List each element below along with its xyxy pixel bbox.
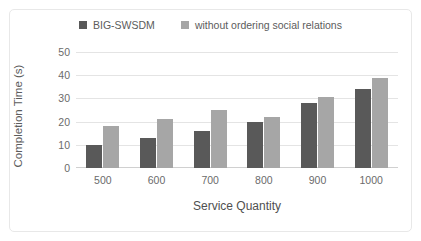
y-axis-title: Completion Time (s): [12, 51, 24, 181]
bar-group: [344, 52, 398, 168]
x-axis-tick-label: 900: [291, 174, 345, 186]
bar-series-2: [211, 110, 227, 168]
bar-series-2: [264, 117, 280, 168]
bar-series-1: [247, 122, 263, 168]
x-axis-title: Service Quantity: [76, 199, 398, 213]
y-axis-tick-label: 20: [58, 116, 70, 127]
x-axis-tick-label: 500: [76, 174, 130, 186]
x-axis-tick-labels: 5006007008009001000: [76, 174, 398, 186]
y-axis-tick-label: 50: [58, 47, 70, 58]
bar-series-2: [157, 119, 173, 168]
bar-series-1: [194, 131, 210, 168]
bar-chart-figure: BIG-SWSDM without ordering social relati…: [0, 0, 421, 241]
bar-group: [291, 52, 345, 168]
bar-group: [130, 52, 184, 168]
x-axis-tick-label: 1000: [344, 174, 398, 186]
bar-series-1: [140, 138, 156, 168]
y-axis-tick-label: 10: [58, 140, 70, 151]
bars-layer: [76, 52, 398, 168]
x-axis-tick-label: 700: [183, 174, 237, 186]
plot-area: [76, 52, 398, 168]
bar-series-2: [372, 78, 388, 168]
x-axis-tick-label: 800: [237, 174, 291, 186]
bar-series-2: [103, 126, 119, 168]
bar-group: [237, 52, 291, 168]
bar-series-1: [355, 89, 371, 168]
bar-series-2: [318, 97, 334, 168]
x-axis-tick-label: 600: [130, 174, 184, 186]
y-axis-tick-label: 30: [58, 93, 70, 104]
y-axis-tick-label: 40: [58, 70, 70, 81]
bar-series-1: [86, 145, 102, 168]
bar-group: [183, 52, 237, 168]
y-axis-tick-labels: 01020304050: [42, 52, 70, 168]
bar-group: [76, 52, 130, 168]
y-axis-tick-label: 0: [64, 163, 70, 174]
bar-series-1: [301, 103, 317, 168]
